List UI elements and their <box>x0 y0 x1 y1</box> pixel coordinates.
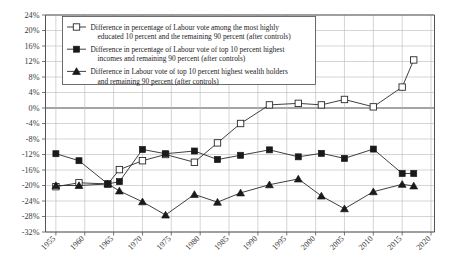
legend-layer: Difference in percentage of Labour vote … <box>63 17 316 86</box>
data-point-filled-square <box>163 151 169 157</box>
data-point-filled-square <box>411 170 417 176</box>
data-point-open-square <box>214 140 220 146</box>
y-axis-tick-label: -20% <box>22 181 40 190</box>
data-point-filled-square <box>266 147 272 153</box>
data-point-open-square <box>191 159 197 165</box>
data-point-open-square <box>411 57 417 63</box>
y-axis-tick-label: -8% <box>26 135 40 144</box>
data-point-open-square <box>73 24 79 30</box>
y-axis-tick-label: 12% <box>24 57 39 66</box>
data-point-filled-square <box>74 46 80 52</box>
legend-label-line2: educated 10 percent and the remaining 90… <box>98 32 292 41</box>
y-axis-tick-label: -24% <box>22 197 40 206</box>
legend-label-line1: Difference in percentage of Labour vote … <box>91 23 280 32</box>
x-axis-tick-label: 2020 <box>415 234 433 252</box>
ytick-label-layer: 24%20%16%12%8%4%0%-4%-8%-12%-16%-20%-24%… <box>22 11 40 237</box>
data-point-filled-square <box>76 158 82 164</box>
legend-label-line2: incomes and remaining 90 percent (after … <box>98 54 246 63</box>
x-axis-tick-label: 1995 <box>270 234 288 252</box>
y-axis-tick-label: 24% <box>24 11 39 20</box>
x-axis-tick-label: 2000 <box>299 234 317 252</box>
y-axis-tick-label: -12% <box>22 150 40 159</box>
y-axis-tick-label: -28% <box>22 212 40 221</box>
data-point-open-square <box>266 102 272 108</box>
data-point-open-square <box>370 104 376 110</box>
data-point-open-square <box>399 84 405 90</box>
data-point-filled-triangle <box>341 205 349 212</box>
y-axis-tick-label: -16% <box>22 166 40 175</box>
data-point-filled-triangle <box>139 198 147 205</box>
data-point-open-square <box>318 102 324 108</box>
xtick-label-layer: 1955196019651970197519801985199019952000… <box>39 234 432 252</box>
series-3 <box>52 175 418 218</box>
y-axis-tick-label: 0% <box>29 104 40 113</box>
x-axis-tick-label: 2015 <box>386 234 404 252</box>
data-point-filled-triangle <box>162 211 170 218</box>
x-axis-tick-label: 1960 <box>68 234 86 252</box>
data-point-filled-triangle <box>214 198 222 205</box>
legend-label-line1: Difference in percentage of Labour vote … <box>91 45 286 54</box>
data-point-filled-square <box>139 146 145 152</box>
data-point-filled-square <box>341 155 347 161</box>
data-point-open-square <box>295 100 301 106</box>
x-axis-tick-label: 2010 <box>357 234 375 252</box>
x-axis-tick-label: 1980 <box>184 234 202 252</box>
y-axis-tick-label: 20% <box>24 26 39 35</box>
legend-label-line1: Difference in Labour vote of top 10 perc… <box>91 67 288 76</box>
data-point-filled-triangle <box>191 191 199 198</box>
data-point-filled-square <box>116 179 122 185</box>
chart-container: 24%20%16%12%8%4%0%-4%-8%-12%-16%-20%-24%… <box>0 0 451 266</box>
data-point-open-square <box>116 166 122 172</box>
y-axis-tick-label: -4% <box>26 119 40 128</box>
data-point-filled-triangle <box>294 175 302 182</box>
data-point-filled-square <box>370 146 376 152</box>
data-point-filled-triangle <box>398 181 406 188</box>
x-axis-tick-label: 1955 <box>39 234 57 252</box>
data-point-filled-square <box>295 154 301 160</box>
line-chart: 24%20%16%12%8%4%0%-4%-8%-12%-16%-20%-24%… <box>0 0 451 266</box>
x-axis-tick-label: 1990 <box>241 234 259 252</box>
data-point-filled-square <box>214 157 220 163</box>
data-point-filled-square <box>53 151 59 157</box>
data-point-filled-square <box>238 152 244 158</box>
x-axis-tick-label: 1985 <box>213 234 231 252</box>
data-point-open-square <box>341 96 347 102</box>
legend-label-line2: and remaining 90 percent (after controls… <box>98 77 220 86</box>
data-point-filled-triangle <box>317 192 325 199</box>
x-axis-tick-label: 1975 <box>155 234 173 252</box>
data-point-open-square <box>237 120 243 126</box>
y-axis-tick-label: 16% <box>24 42 39 51</box>
y-axis-tick-label: 4% <box>29 88 40 97</box>
data-point-open-square <box>139 158 145 164</box>
data-point-filled-square <box>399 170 405 176</box>
x-axis-tick-label: 2005 <box>328 234 346 252</box>
data-point-filled-triangle <box>115 187 123 194</box>
y-axis-tick-label: -32% <box>22 228 40 237</box>
data-point-filled-square <box>191 148 197 154</box>
x-axis-tick-label: 1970 <box>126 234 144 252</box>
x-axis-tick-label: 1965 <box>97 234 115 252</box>
data-point-filled-square <box>318 150 324 156</box>
y-axis-tick-label: 8% <box>29 73 40 82</box>
